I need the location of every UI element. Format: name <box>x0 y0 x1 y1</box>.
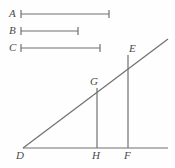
segment-label-a: A <box>9 8 16 19</box>
point-label-d: D <box>16 150 24 161</box>
comparison-segment-group-c <box>21 44 100 52</box>
ray-DE <box>23 39 168 148</box>
point-label-g: G <box>90 76 98 87</box>
comparison-segment-group-a <box>21 10 109 18</box>
geometry-figure: A B C D H F G E <box>0 0 175 168</box>
segment-label-c: C <box>9 42 16 53</box>
segment-label-b: B <box>9 25 16 36</box>
triangle-diagram-group <box>23 39 168 148</box>
figure-canvas <box>0 0 175 168</box>
point-label-e: E <box>129 43 136 54</box>
comparison-segment-group-b <box>21 27 78 35</box>
point-label-f: F <box>124 150 131 161</box>
point-label-h: H <box>92 150 100 161</box>
